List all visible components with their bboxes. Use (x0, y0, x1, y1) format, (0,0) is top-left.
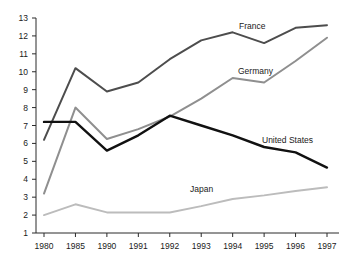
series-line-japan (44, 187, 327, 215)
y-tick-label: 2 (23, 210, 28, 220)
series-line-france (44, 25, 327, 140)
x-tick-label: 1992 (160, 241, 179, 251)
y-tick-label: 4 (23, 174, 28, 184)
chart-series-lines (44, 25, 327, 215)
x-tick-label: 1980 (35, 241, 54, 251)
y-tick-label: 3 (23, 192, 28, 202)
x-tick-label: 1990 (97, 241, 116, 251)
chart-canvas: 12345678910111213 1980198519901991199219… (0, 0, 345, 260)
y-tick-label: 9 (23, 85, 28, 95)
series-label-united-states: United States (262, 135, 313, 145)
x-axis-tick-labels: 1980198519901991199219931994199519961997 (35, 241, 337, 251)
axis-lines (36, 18, 339, 233)
x-tick-label: 1997 (318, 241, 337, 251)
series-label-france: France (239, 21, 266, 31)
y-axis-tick-labels: 12345678910111213 (19, 13, 29, 238)
y-tick-label: 5 (23, 156, 28, 166)
x-tick-label: 1994 (223, 241, 242, 251)
y-tick-label: 7 (23, 121, 28, 131)
x-tick-label: 1995 (255, 241, 274, 251)
series-label-japan: Japan (190, 184, 213, 194)
y-tick-label: 8 (23, 103, 28, 113)
line-chart-figure: 12345678910111213 1980198519901991199219… (0, 0, 345, 260)
y-tick-label: 6 (23, 138, 28, 148)
x-tick-label: 1991 (129, 241, 148, 251)
y-tick-label: 12 (19, 31, 29, 41)
y-tick-label: 1 (23, 228, 28, 238)
series-line-germany (44, 38, 327, 194)
y-tick-label: 13 (19, 13, 29, 23)
series-label-germany: Germany (238, 66, 274, 76)
x-tick-label: 1993 (192, 241, 211, 251)
x-tick-label: 1985 (66, 241, 85, 251)
x-tick-label: 1996 (286, 241, 305, 251)
y-tick-label: 10 (19, 67, 29, 77)
series-inline-labels: FranceGermanyUnited StatesJapan (190, 21, 313, 194)
y-tick-label: 11 (19, 49, 28, 59)
